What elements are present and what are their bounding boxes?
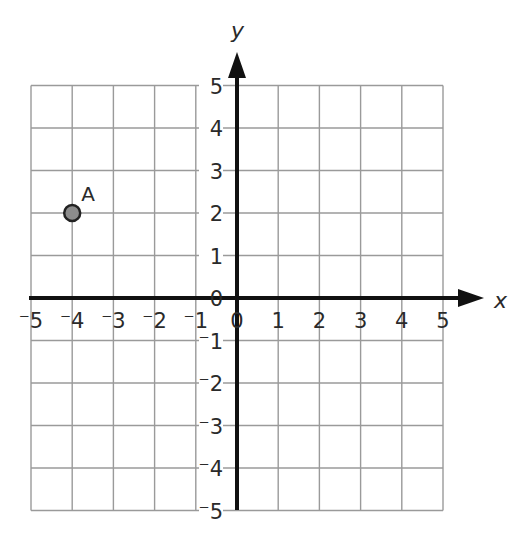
data-points: A — [64, 182, 95, 221]
y-tick-label: ⁻3 — [199, 415, 223, 439]
coordinate-plane: ⁻5⁻4⁻3⁻2⁻1012345⁻5⁻4⁻3⁻2⁻1012345 x y A — [0, 0, 528, 539]
x-tick-label: 0 — [230, 309, 243, 333]
y-axis-arrow-icon — [228, 52, 246, 78]
x-tick-label: 4 — [395, 309, 408, 333]
y-axis-label: y — [230, 18, 245, 43]
x-tick-label: ⁻3 — [101, 309, 125, 333]
x-tick-label: ⁻4 — [60, 309, 84, 333]
x-tick-label: ⁻2 — [142, 309, 166, 333]
y-tick-label: 5 — [210, 75, 223, 99]
y-tick-label: 4 — [210, 117, 223, 141]
y-tick-label: 0 — [210, 287, 223, 311]
x-tick-label: ⁻5 — [19, 309, 43, 333]
y-tick-label: ⁻4 — [199, 457, 223, 481]
y-tick-label: ⁻5 — [199, 500, 223, 524]
point-marker — [64, 205, 80, 221]
y-tick-label: 1 — [210, 245, 223, 269]
axes — [29, 52, 484, 510]
y-tick-label: ⁻2 — [199, 372, 223, 396]
x-tick-label: 2 — [313, 309, 326, 333]
y-tick-label: ⁻1 — [199, 330, 223, 354]
y-tick-label: 2 — [210, 202, 223, 226]
point-label: A — [81, 182, 95, 206]
x-tick-label: 1 — [272, 309, 285, 333]
y-tick-label: 3 — [210, 160, 223, 184]
x-axis-arrow-icon — [458, 289, 484, 307]
x-axis-label: x — [493, 288, 508, 313]
x-tick-label: 5 — [436, 309, 449, 333]
x-tick-label: 3 — [354, 309, 367, 333]
